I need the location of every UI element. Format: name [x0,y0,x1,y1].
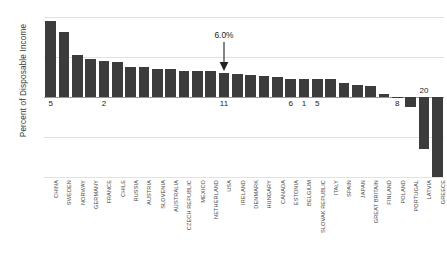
bars-layer [44,17,444,177]
plot-area: 5211615820 6.0% [44,17,444,177]
bar [285,79,296,97]
inline-value-label: 2 [93,99,115,108]
bar [419,97,430,149]
bar [192,71,203,97]
inline-value-label: 5 [40,99,62,108]
category-label: GREAT BRITAIN [373,180,379,223]
category-label: CHINA [53,180,59,198]
category-label: RUSSIA [133,180,139,201]
category-label: ITALY [333,180,339,195]
bar [59,32,70,97]
category-label: CZECH REPUBLIC [186,180,192,230]
bar [125,67,136,97]
category-axis-labels: CHINASWEDENNORWAYGERMANYFRANCECHILERUSSI… [44,180,444,255]
category-label: POLAND [400,180,406,204]
bar [312,79,323,97]
bar [112,62,123,97]
category-label: CHILE [120,180,126,197]
category-label: GREECE [440,180,446,204]
bar [152,69,163,97]
bar [432,97,443,177]
category-label: SLOVAK REPUBLIC [320,180,326,233]
inline-value-label: 5 [306,99,328,108]
bar [72,55,83,97]
bar [259,76,270,97]
category-label: IRELAND [240,180,246,205]
bar [219,73,230,97]
category-label: NETHERLAND [213,180,219,219]
bar [365,86,376,97]
gridline [44,177,444,178]
category-label: SPAIN [346,180,352,197]
inline-value-label: 8 [386,99,408,108]
bar [325,79,336,97]
category-label: BELGIUM [306,180,312,206]
bar [245,75,256,97]
bar [85,59,96,97]
category-label: JAPAN [360,180,366,198]
bar [45,21,56,97]
bar [352,85,363,97]
bar [272,77,283,97]
category-label: ESTONIA [293,180,299,205]
bar [205,71,216,97]
category-label: NORWAY [80,180,86,205]
bar-chart: Percent of Disposable Income 20%10%0%-10… [0,0,447,255]
category-label: AUSTRALIA [173,180,179,212]
category-label: CANADA [280,180,286,204]
bar [99,61,110,97]
category-label: HUNGARY [266,180,272,209]
category-label: PORTUGAL [413,180,419,211]
bar [299,79,310,97]
bar [232,74,243,97]
category-label: LATVIA [426,180,432,199]
bar [392,97,403,98]
inline-value-label: 11 [213,99,235,108]
inline-value-label: 20 [413,86,435,95]
category-label: FINLAND [386,180,392,205]
category-label: SWEDEN [66,180,72,205]
category-label: SLOVENIA [160,180,166,209]
bar [379,94,390,97]
bar [139,67,150,97]
category-label: AUSTRIA [146,180,152,205]
category-label: USA [226,180,232,192]
bar [339,83,350,97]
category-label: DENMARK [253,180,259,209]
category-label: FRANCE [106,180,112,204]
y-axis-title: Percent of Disposable Income [19,6,28,156]
bar [165,69,176,97]
category-label: MEXICO [200,180,206,203]
bar [179,71,190,97]
category-label: GERMANY [93,180,99,209]
